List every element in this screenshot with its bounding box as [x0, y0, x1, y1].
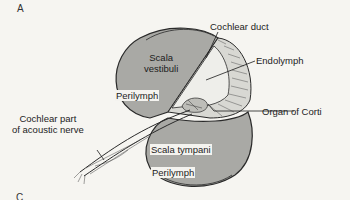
label-scala-vestibuli-line1: Scala — [144, 52, 178, 63]
label-cochlear-nerve: Cochlear part of acoustic nerve — [12, 113, 84, 135]
label-scala-tympani: Scala tympani — [150, 144, 212, 155]
label-cochlear-nerve-line2: of acoustic nerve — [12, 124, 84, 135]
label-endolymph: Endolymph — [256, 55, 304, 66]
label-organ-of-corti: Organ of Corti — [262, 106, 322, 117]
next-panel-label: C — [16, 192, 23, 200]
label-cochlear-nerve-line1: Cochlear part — [12, 113, 84, 124]
label-scala-vestibuli: Scala vestibuli — [144, 52, 178, 74]
cochlea-diagram: A Scala vestibuli Perilymph Cochlear duc… — [0, 0, 350, 200]
label-perilymph-lower: Perilymph — [151, 167, 195, 178]
label-perilymph-upper: Perilymph — [115, 90, 159, 101]
label-cochlear-duct: Cochlear duct — [210, 21, 269, 32]
panel-label: A — [17, 3, 24, 14]
label-scala-vestibuli-line2: vestibuli — [144, 63, 178, 74]
